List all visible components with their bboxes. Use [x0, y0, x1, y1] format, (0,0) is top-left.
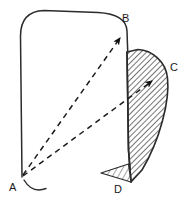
diagram-canvas: A B C D — [0, 0, 185, 200]
label-a: A — [9, 181, 17, 193]
label-b: B — [122, 12, 129, 24]
figure-root: A B C D — [0, 0, 185, 200]
label-d: D — [114, 183, 122, 195]
label-c: C — [170, 61, 178, 73]
